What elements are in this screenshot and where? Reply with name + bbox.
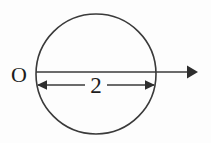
figure-canvas: O 2 — [0, 0, 211, 143]
diameter-label: 2 — [90, 73, 102, 98]
origin-label: O — [11, 62, 27, 87]
arrow-right-solid-icon — [187, 66, 198, 79]
circle-diameter-figure: O 2 — [0, 0, 211, 143]
